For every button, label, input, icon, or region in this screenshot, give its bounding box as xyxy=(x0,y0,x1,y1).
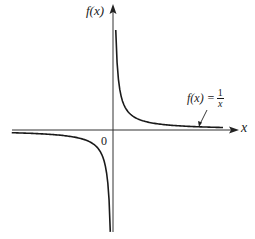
origin-label: 0 xyxy=(101,134,107,149)
annotation-pointer xyxy=(200,110,207,124)
function-annotation: f(x) = 1 x xyxy=(187,88,224,109)
reciprocal-function-graph xyxy=(0,0,255,239)
y-axis-label: f(x) xyxy=(86,3,104,19)
x-axis-label: x xyxy=(241,120,247,136)
y-axis-label-text: f(x) xyxy=(86,3,104,18)
curve-right-branch xyxy=(116,30,223,128)
function-annotation-lhs: f(x) = xyxy=(187,91,215,106)
fraction-denominator: x xyxy=(218,99,222,109)
function-fraction: 1 x xyxy=(217,88,224,109)
curve-left-branch xyxy=(12,133,111,232)
